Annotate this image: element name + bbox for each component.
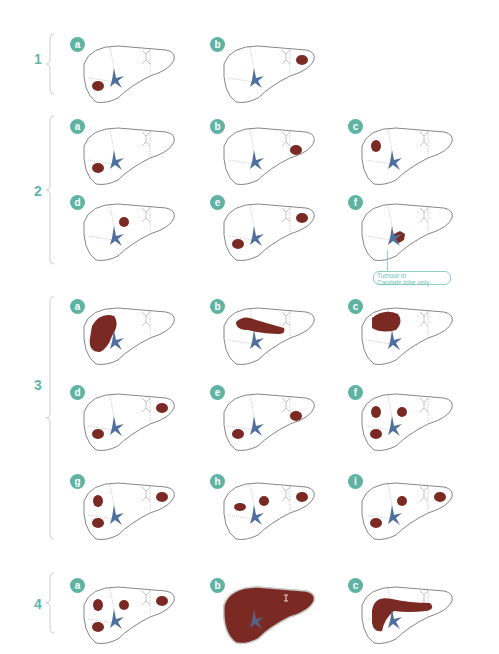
panel-3d: d (70, 385, 180, 451)
panel-4c: c (348, 578, 458, 644)
group-label-4: 4 (34, 596, 42, 612)
liver-diagram-icon (78, 302, 180, 366)
panel-2b: b (210, 119, 320, 185)
liver-diagram-icon (78, 477, 180, 541)
panel-1b: b (210, 37, 320, 103)
brace-group-2 (44, 115, 56, 265)
liver-diagram-icon (218, 477, 320, 541)
panel-4a: a (70, 578, 180, 644)
liver-diagram-icon (218, 122, 320, 186)
group-label-2: 2 (34, 183, 42, 199)
panel-3i: i (348, 474, 458, 540)
caudate-callout: Tumour in Caudate lobe only (373, 271, 451, 285)
liver-diagram-icon (78, 122, 180, 186)
brace-group-4 (44, 572, 56, 634)
callout-line-1: Tumour in (377, 272, 447, 279)
panel-2a: a (70, 119, 180, 185)
callout-leader-line (387, 250, 388, 272)
panel-2d: d (70, 195, 180, 261)
liver-diagram-icon (78, 40, 180, 104)
liver-diagram-icon (356, 122, 458, 186)
panel-3b: b (210, 299, 320, 365)
liver-diagram-icon (218, 302, 320, 366)
liver-diagram-icon (356, 477, 458, 541)
liver-diagram-icon (356, 198, 458, 262)
liver-diagram-icon (218, 40, 320, 104)
callout-line-2: Caudate lobe only (377, 279, 447, 286)
group-label-1: 1 (34, 51, 42, 67)
liver-diagram-icon (356, 581, 458, 645)
panel-4b: b (210, 578, 320, 644)
liver-diagram-icon (218, 198, 320, 262)
group-label-3: 3 (34, 377, 42, 393)
panel-3a: a (70, 299, 180, 365)
panel-1a: a (70, 37, 180, 103)
panel-3c: c (348, 299, 458, 365)
liver-diagram-icon (356, 302, 458, 366)
panel-3f: f (348, 385, 458, 451)
panel-2f: f (348, 195, 458, 261)
liver-diagram-icon (78, 388, 180, 452)
panel-2c: c (348, 119, 458, 185)
liver-diagram-icon (356, 388, 458, 452)
liver-diagram-icon (78, 581, 180, 645)
panel-3g: g (70, 474, 180, 540)
brace-group-1 (44, 33, 56, 95)
brace-group-3 (44, 296, 56, 540)
liver-diagram-icon (218, 388, 320, 452)
liver-diagram-icon (78, 198, 180, 262)
liver-diagram-icon (218, 581, 320, 645)
panel-2e: e (210, 195, 320, 261)
panel-3e: e (210, 385, 320, 451)
panel-3h: h (210, 474, 320, 540)
